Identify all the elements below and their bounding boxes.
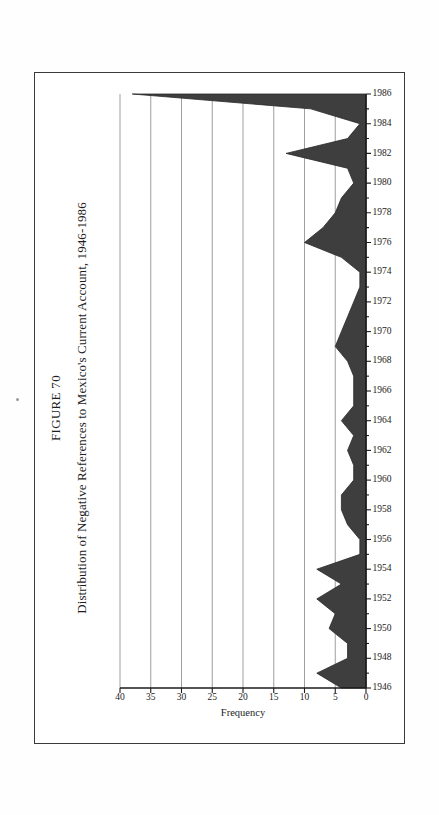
x-tick-label-1956: 1956 — [372, 533, 391, 543]
y-tick-label-0: 0 — [363, 692, 368, 702]
y-axis-ticks: 0510152025303540 — [115, 688, 368, 702]
x-tick-label-1982: 1982 — [372, 147, 391, 157]
x-tick-label-1968: 1968 — [372, 355, 391, 365]
x-tick-label-1952: 1952 — [372, 593, 391, 603]
x-tick-label-1962: 1962 — [372, 444, 391, 454]
chart-area: 1946194819501952195419561958196019621964… — [114, 78, 400, 738]
figure-rotated-container: FIGURE 70 Distribution of Negative Refer… — [40, 78, 400, 738]
x-tick-label-1960: 1960 — [372, 474, 391, 484]
x-tick-label-1972: 1972 — [372, 296, 391, 306]
area-series — [132, 94, 366, 688]
x-tick-label-1976: 1976 — [372, 236, 391, 246]
x-tick-label-1946: 1946 — [372, 682, 391, 692]
y-tick-label-30: 30 — [176, 692, 186, 702]
x-tick-label-1964: 1964 — [372, 414, 391, 424]
document-page: FIGURE 70 Distribution of Negative Refer… — [0, 0, 439, 815]
figure-title: Distribution of Negative References to M… — [74, 78, 90, 738]
x-tick-label-1966: 1966 — [372, 385, 391, 395]
x-tick-label-1958: 1958 — [372, 503, 391, 513]
x-tick-label-1978: 1978 — [372, 206, 391, 216]
y-axis-title: Frequency — [220, 707, 265, 718]
y-tick-label-35: 35 — [146, 692, 156, 702]
scan-artifact-speck — [16, 398, 19, 401]
x-tick-label-1980: 1980 — [372, 177, 391, 187]
y-axis-title-text: Frequency — [220, 707, 265, 718]
x-axis-ticks: 1946194819501952195419561958196019621964… — [366, 88, 392, 692]
y-tick-label-25: 25 — [207, 692, 217, 702]
area-polygon — [132, 94, 366, 688]
y-tick-label-5: 5 — [332, 692, 337, 702]
gridlines — [120, 94, 335, 688]
x-tick-label-1950: 1950 — [372, 622, 391, 632]
figure-number-label: FIGURE 70 — [48, 78, 64, 738]
x-tick-label-1986: 1986 — [372, 88, 391, 98]
frequency-area-chart: 1946194819501952195419561958196019621964… — [114, 78, 400, 738]
y-tick-label-15: 15 — [269, 692, 279, 702]
x-tick-label-1954: 1954 — [372, 563, 391, 573]
figure-inner: FIGURE 70 Distribution of Negative Refer… — [40, 78, 400, 738]
y-tick-label-20: 20 — [238, 692, 248, 702]
y-tick-label-10: 10 — [299, 692, 309, 702]
x-tick-label-1970: 1970 — [372, 325, 391, 335]
y-tick-label-40: 40 — [115, 692, 125, 702]
x-tick-label-1984: 1984 — [372, 117, 391, 127]
x-tick-label-1948: 1948 — [372, 652, 391, 662]
x-tick-label-1974: 1974 — [372, 266, 391, 276]
